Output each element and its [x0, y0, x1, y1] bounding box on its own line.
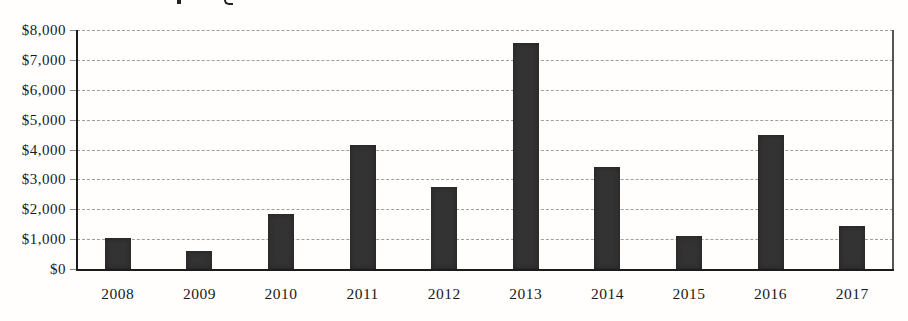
- x-axis-label-2008: 2008: [88, 285, 148, 303]
- gridline-6000: [77, 90, 893, 91]
- plot-border-right: [892, 30, 894, 269]
- bar-2013: [513, 43, 539, 269]
- y-axis-label-5000: $5,000: [2, 111, 66, 129]
- title-descender-stem-fragment: [177, 0, 181, 4]
- x-axis-label-2012: 2012: [414, 285, 474, 303]
- bar-2017: [839, 226, 865, 269]
- y-axis-label-7000: $7,000: [2, 51, 66, 69]
- bar-2012: [431, 187, 457, 269]
- x-axis-label-2009: 2009: [169, 285, 229, 303]
- x-axis-label-2010: 2010: [251, 285, 311, 303]
- y-axis-label-4000: $4,000: [2, 141, 66, 159]
- y-axis-label-0: $0: [2, 260, 66, 278]
- y-axis-line: [76, 30, 78, 271]
- gridline-5000: [77, 120, 893, 121]
- title-descender-hook-fragment: [224, 0, 233, 5]
- bar-2015: [676, 236, 702, 269]
- bar-chart-figure: $0$1,000$2,000$3,000$4,000$5,000$6,000$7…: [0, 0, 908, 321]
- y-axis-label-2000: $2,000: [2, 200, 66, 218]
- x-axis-label-2016: 2016: [741, 285, 801, 303]
- y-axis-label-3000: $3,000: [2, 170, 66, 188]
- gridline-7000: [77, 60, 893, 61]
- x-axis-label-2017: 2017: [822, 285, 882, 303]
- bar-2010: [268, 214, 294, 269]
- bar-2011: [350, 145, 376, 269]
- bar-2008: [105, 238, 131, 269]
- x-axis-label-2011: 2011: [333, 285, 393, 303]
- bar-2009: [186, 251, 212, 269]
- x-axis-label-2014: 2014: [577, 285, 637, 303]
- bar-2016: [758, 135, 784, 269]
- x-axis-label-2013: 2013: [496, 285, 556, 303]
- y-axis-label-8000: $8,000: [2, 21, 66, 39]
- x-axis-label-2015: 2015: [659, 285, 719, 303]
- y-axis-label-6000: $6,000: [2, 81, 66, 99]
- gridline-8000: [77, 30, 893, 31]
- x-axis-line: [76, 269, 894, 271]
- y-axis-label-1000: $1,000: [2, 230, 66, 248]
- bar-2014: [594, 167, 620, 269]
